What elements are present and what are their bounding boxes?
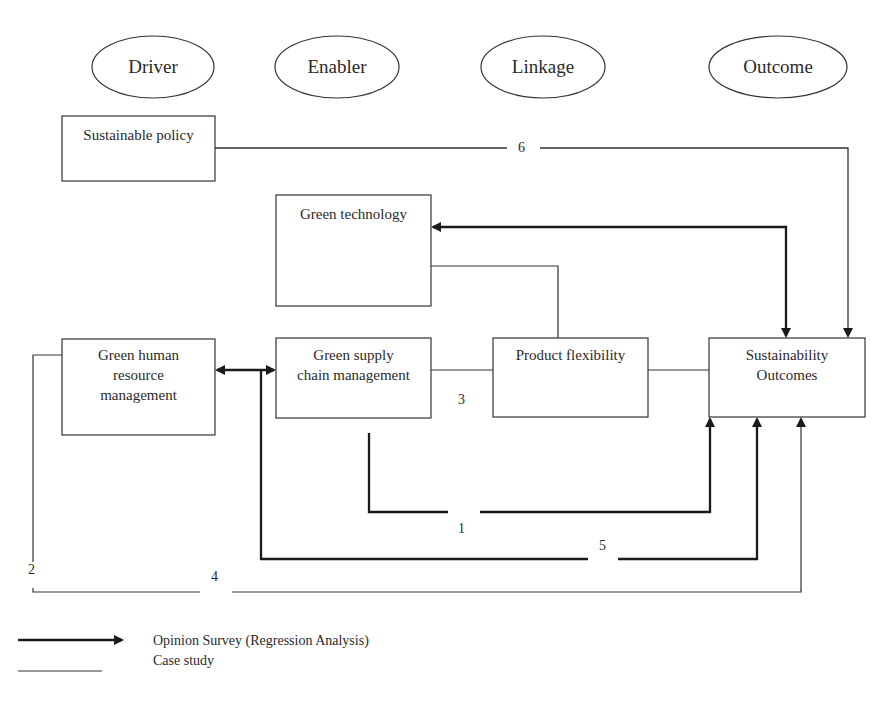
gscm-label: Green supply chain management	[296, 345, 411, 385]
legend-line-label: Case study	[153, 652, 214, 669]
product-flexibility-label: Product flexibility	[493, 345, 648, 365]
green-hrm-label: Green human resource management	[90, 345, 187, 405]
path-5-arrow	[261, 370, 757, 559]
path-label-6: 6	[516, 140, 527, 156]
header-driver: Driver	[92, 55, 214, 79]
header-linkage: Linkage	[481, 55, 605, 79]
green-technology-label: Green technology	[276, 204, 431, 224]
legend-arrow-label: Opinion Survey (Regression Analysis)	[153, 632, 369, 649]
tech-outcomes-arrow	[433, 227, 786, 336]
sustainability-outcomes-label: Sustainability Outcomes	[730, 345, 844, 385]
sustainable-policy-label: Sustainable policy	[62, 125, 215, 145]
header-enabler: Enabler	[275, 55, 399, 79]
path-label-2: 2	[26, 562, 37, 578]
path-label-5: 5	[597, 538, 608, 554]
path-label-4: 4	[209, 569, 220, 585]
path-label-3: 3	[456, 392, 467, 408]
path-label-1: 1	[456, 521, 467, 537]
header-outcome: Outcome	[709, 55, 847, 79]
path-1-arrow	[369, 419, 710, 512]
tech-flex-line	[431, 266, 558, 338]
path-6-line	[215, 148, 848, 336]
